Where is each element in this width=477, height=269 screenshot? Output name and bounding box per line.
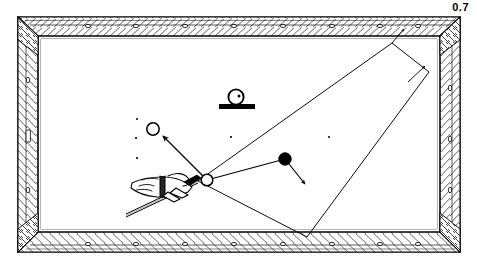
spot-right <box>328 136 330 138</box>
ball-on-block <box>228 89 243 104</box>
billiard-diagram <box>0 0 477 269</box>
cue-ball <box>201 174 213 186</box>
table-cloth <box>41 39 437 229</box>
spot-left-upper <box>136 118 138 120</box>
spot-left-middle <box>135 137 137 139</box>
hand-cuff-band <box>160 176 165 197</box>
ball-on-block-pip <box>238 95 241 98</box>
spot-center <box>230 136 232 138</box>
rail-top <box>18 17 460 36</box>
figure-canvas: 0.7 <box>0 0 477 269</box>
object-ball-white <box>147 123 159 135</box>
target-ball-black <box>279 153 291 165</box>
spot-left-lower <box>136 157 138 159</box>
support-block <box>219 104 255 109</box>
